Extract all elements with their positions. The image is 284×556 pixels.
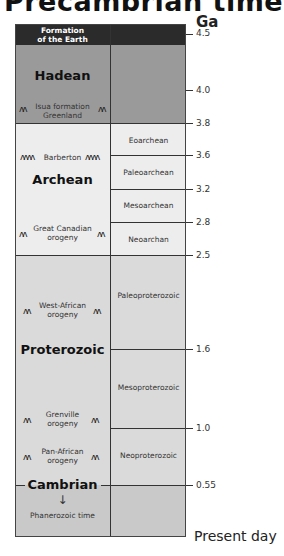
tick-4.5 — [186, 34, 193, 35]
mountain-icon: ʌʌ — [19, 104, 26, 114]
event-great-canadian: Great Canadian orogeny — [15, 224, 110, 242]
era-mesoarchean: Mesoarchean — [111, 201, 186, 210]
mountain-icon: ʌʌ — [23, 452, 30, 462]
eon-proterozoic: Proterozoic — [15, 342, 110, 357]
tick-label: 4.5 — [196, 28, 210, 38]
mountain-icon: ʌʌ — [91, 415, 98, 425]
boundary-3.6 — [110, 155, 193, 156]
header-label: Formation of the Earth — [15, 26, 110, 44]
tick-label: 0.55 — [196, 480, 216, 490]
tick-label: 1.0 — [196, 423, 210, 433]
boundary-1.0 — [110, 428, 193, 429]
era-eoarchean: Eoarchean — [111, 136, 186, 145]
tick-label: 2.5 — [196, 250, 210, 260]
mountain-icon: ʌʌ — [91, 452, 98, 462]
tick-label: 1.6 — [196, 344, 210, 354]
mountain-icon: ʌʌʌʌ — [20, 152, 33, 162]
mountain-icon: ʌʌʌʌ — [85, 152, 98, 162]
eon-cambrian: Cambrian — [15, 477, 110, 492]
era-paleoproterozoic: Paleoproterozoic — [111, 291, 186, 300]
tick-label: 3.2 — [196, 184, 210, 194]
boundary-3.8 — [15, 123, 193, 124]
event-great-canadian-line2: orogeny — [15, 233, 110, 242]
boundary-3.2 — [110, 189, 193, 190]
present-day-label: Present day — [194, 528, 277, 544]
era-mesoproterozoic: Mesoproterozoic — [111, 383, 186, 392]
event-isua-line2: Greenland — [15, 111, 110, 120]
event-great-canadian-line1: Great Canadian — [15, 224, 110, 233]
phanerozoic-label: Phanerozoic time — [15, 511, 110, 520]
mountain-icon: ʌʌ — [23, 306, 30, 316]
column-divider — [110, 24, 111, 537]
era-paleoarchean: Paleoarchean — [111, 168, 186, 177]
boundary-0.55-right — [101, 485, 193, 486]
header-line1: Formation — [15, 26, 110, 35]
mountain-icon: ʌʌ — [97, 229, 104, 239]
header-line2: of the Earth — [15, 35, 110, 44]
mountain-icon: ʌʌ — [93, 306, 100, 316]
era-neoproterozoic: Neoproterozoic — [111, 451, 186, 460]
boundary-1.6 — [110, 349, 193, 350]
tick-label: 4.0 — [196, 85, 210, 95]
mountain-icon: ʌʌ — [98, 104, 105, 114]
boundary-2.5 — [15, 255, 193, 256]
arrow-down-icon: ↓ — [15, 494, 110, 506]
event-isua: Isua formation Greenland — [15, 102, 110, 120]
mountain-icon: ʌʌ — [19, 229, 26, 239]
tick-label: 3.8 — [196, 118, 210, 128]
event-isua-line1: Isua formation — [15, 102, 110, 111]
tick-label: 3.6 — [196, 150, 210, 160]
tick-label: 2.8 — [196, 217, 210, 227]
eon-archean: Archean — [15, 172, 110, 187]
page-title: Precambrian times — [4, 0, 284, 17]
mountain-icon: ʌʌ — [23, 415, 30, 425]
cambrian-label: Cambrian — [27, 477, 97, 492]
era-neoarchan: Neoarchan — [111, 235, 186, 244]
eon-hadean: Hadean — [15, 68, 110, 83]
timeline-chart: Formation of the Earth Hadean Archean Pr… — [15, 24, 186, 537]
boundary-2.8 — [110, 222, 193, 223]
tick-4.0 — [186, 90, 193, 91]
